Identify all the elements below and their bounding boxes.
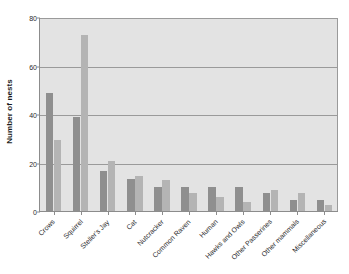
bar bbox=[73, 117, 81, 212]
bar bbox=[54, 140, 62, 212]
bar bbox=[263, 193, 271, 212]
bar-group bbox=[73, 18, 89, 212]
bar-group bbox=[290, 18, 306, 212]
y-axis-title-text: Number of nests bbox=[5, 79, 14, 144]
bar-group bbox=[181, 18, 197, 212]
bar bbox=[216, 197, 224, 212]
bar bbox=[81, 35, 89, 212]
bar bbox=[271, 190, 279, 212]
y-axis-title: Number of nests bbox=[2, 56, 16, 166]
bar bbox=[127, 179, 135, 212]
x-axis-line bbox=[40, 211, 338, 212]
bar bbox=[135, 176, 143, 212]
y-axis-tick-label: 80 bbox=[29, 15, 37, 22]
bar-group bbox=[208, 18, 224, 212]
bars-layer bbox=[40, 18, 338, 212]
bar bbox=[298, 193, 306, 212]
bar bbox=[181, 187, 189, 212]
bar-chart: Number of nests 020406080 CrowsSquirrelS… bbox=[0, 0, 349, 274]
bar-group bbox=[235, 18, 251, 212]
bar bbox=[46, 93, 54, 212]
bar-group bbox=[154, 18, 170, 212]
bar bbox=[208, 187, 216, 212]
bar bbox=[189, 193, 197, 212]
bar-group bbox=[100, 18, 116, 212]
bar-group bbox=[317, 18, 333, 212]
plot-area: 020406080 bbox=[39, 18, 338, 212]
bar-group bbox=[46, 18, 62, 212]
y-axis-tick-label: 40 bbox=[29, 112, 37, 119]
bar-group bbox=[127, 18, 143, 212]
x-axis-tick-label: Crows bbox=[37, 218, 56, 237]
x-axis-labels: CrowsSquirrelSteller's JayCatNutcrackerC… bbox=[39, 215, 337, 273]
bar bbox=[154, 187, 162, 212]
x-axis-tick-label: Squirrel bbox=[62, 218, 84, 240]
bar bbox=[235, 187, 243, 212]
y-axis-tick-label: 60 bbox=[29, 63, 37, 70]
bar bbox=[100, 171, 108, 212]
x-axis-tick-label: Human bbox=[198, 218, 219, 239]
y-axis-tick-label: 20 bbox=[29, 160, 37, 167]
x-axis-tick-label: Cat bbox=[125, 218, 138, 231]
bar-group bbox=[263, 18, 279, 212]
bar bbox=[162, 180, 170, 212]
bar bbox=[108, 161, 116, 212]
